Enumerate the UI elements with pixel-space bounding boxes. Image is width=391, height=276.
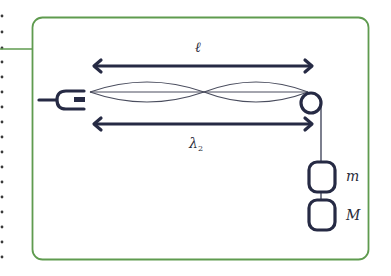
mass-m-label: m — [346, 168, 359, 184]
vibrator-clamp — [74, 97, 85, 102]
mass-m-block — [309, 162, 335, 192]
wavelength-label: λ2 — [188, 135, 203, 153]
length-arrow — [94, 60, 312, 72]
length-label: ℓ — [195, 39, 201, 55]
pulley-icon — [301, 93, 321, 113]
standing-wave-string — [90, 82, 308, 102]
mass-M-label: M — [345, 207, 361, 223]
standing-wave-diagram: ℓ λ2 m M — [0, 0, 391, 276]
wavelength-arrow — [94, 118, 312, 130]
wavelength-subscript: 2 — [198, 144, 203, 153]
margin-dots — [1, 15, 4, 259]
wavelength-symbol: λ — [188, 135, 198, 151]
mass-M-block — [309, 200, 335, 230]
